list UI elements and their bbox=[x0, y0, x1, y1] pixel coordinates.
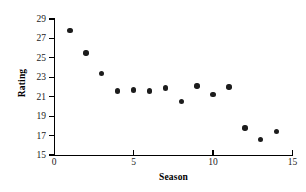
y-axis-tick bbox=[49, 135, 55, 136]
y-axis-tick bbox=[49, 38, 55, 39]
x-axis-tick-label: 15 bbox=[281, 157, 305, 168]
x-axis-line bbox=[54, 155, 293, 156]
x-axis-tick bbox=[292, 150, 293, 155]
data-point bbox=[226, 84, 231, 89]
y-axis-tick bbox=[49, 18, 55, 19]
y-axis-tick-label: 29 bbox=[24, 14, 46, 24]
x-axis-tick-label: 0 bbox=[42, 157, 66, 168]
data-point bbox=[194, 83, 199, 88]
data-point bbox=[210, 92, 215, 97]
data-point bbox=[67, 28, 72, 33]
y-axis-tick bbox=[49, 77, 55, 78]
y-axis-tick bbox=[49, 96, 55, 97]
data-point bbox=[163, 85, 168, 90]
data-point bbox=[99, 71, 104, 76]
x-axis-tick bbox=[133, 150, 134, 155]
data-point bbox=[179, 99, 184, 104]
y-axis-tick-label: 17 bbox=[24, 131, 46, 141]
y-axis-tick-label: 25 bbox=[24, 53, 46, 63]
x-axis-tick-label: 10 bbox=[201, 157, 225, 168]
y-axis-tick-label: 27 bbox=[24, 33, 46, 43]
y-axis-tick-label-text: 23 bbox=[26, 72, 46, 82]
y-axis-tick-label-text: 29 bbox=[26, 14, 46, 24]
y-axis-tick bbox=[49, 116, 55, 117]
data-point bbox=[131, 87, 136, 92]
scatter-chart: Rating Season 1517192123252729051015 bbox=[0, 0, 306, 192]
y-axis-tick-label-text: 17 bbox=[26, 131, 46, 141]
y-axis-tick-label-text: 25 bbox=[26, 53, 46, 63]
x-axis-title: Season bbox=[54, 172, 293, 182]
data-point bbox=[258, 137, 263, 142]
data-point bbox=[242, 125, 247, 130]
x-axis-tick bbox=[212, 150, 213, 155]
y-axis-tick-label: 21 bbox=[24, 92, 46, 102]
y-axis-tick-label-text: 19 bbox=[26, 111, 46, 121]
y-axis-tick-label-text: 21 bbox=[26, 92, 46, 102]
data-point bbox=[115, 88, 120, 93]
y-axis-tick bbox=[49, 154, 55, 155]
y-axis-tick-label-text: 27 bbox=[26, 33, 46, 43]
data-point bbox=[274, 129, 279, 134]
y-axis-tick-label: 19 bbox=[24, 111, 46, 121]
y-axis-tick-label: 23 bbox=[24, 72, 46, 82]
x-axis-tick-label: 5 bbox=[122, 157, 146, 168]
y-axis-tick bbox=[49, 57, 55, 58]
data-point bbox=[147, 88, 152, 93]
data-point bbox=[83, 50, 88, 55]
